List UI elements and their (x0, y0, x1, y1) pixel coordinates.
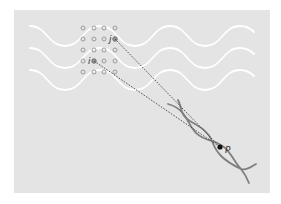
diagram-panel (14, 10, 270, 193)
label-point-p: P (225, 145, 231, 155)
scattering-diagram: j i P (0, 0, 281, 204)
observation-point-p (217, 144, 222, 149)
